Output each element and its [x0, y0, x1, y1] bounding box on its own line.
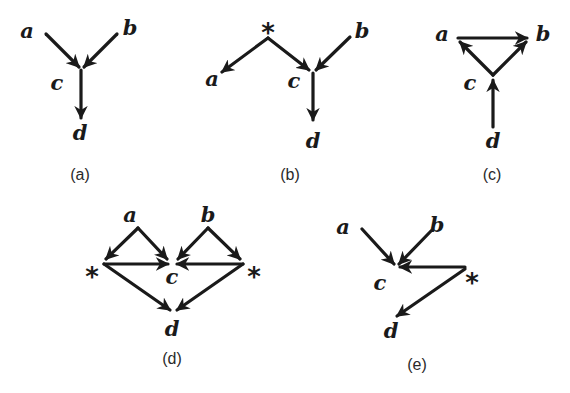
node-label-d: d [165, 316, 180, 341]
edge-a-to-star-left [106, 228, 138, 259]
panel-caption: (c) [483, 166, 502, 183]
latent-node-star: * [85, 262, 99, 292]
edge-a-to-c [362, 229, 394, 264]
edge-b-to-c [84, 34, 117, 67]
node-label-d: d [73, 120, 88, 145]
edge-b-to-c [316, 37, 350, 70]
panel-caption: (e) [407, 356, 427, 373]
edge-a-to-c [46, 34, 79, 67]
edge-star-right-to-d [177, 264, 243, 310]
edge-b-to-star-right [208, 228, 240, 259]
node-label-b: b [430, 212, 445, 237]
node-label-c: c [166, 264, 179, 289]
node-label-c: c [374, 270, 387, 295]
edge-b-to-c [178, 228, 208, 259]
edge-a-to-c [138, 228, 167, 259]
latent-node-star: * [465, 268, 479, 298]
node-label-d: d [384, 318, 399, 343]
latent-node-star: * [261, 18, 275, 48]
panel-d: ab**cd(d) [85, 202, 261, 367]
node-label-b: b [355, 18, 370, 43]
panel-caption: (d) [162, 350, 182, 367]
panel-a: abcd(a) [20, 15, 137, 183]
edge-b-to-c [399, 231, 431, 264]
node-label-b: b [201, 202, 216, 227]
panel-caption: (b) [280, 166, 300, 183]
node-label-c: c [288, 68, 301, 93]
node-label-d: d [306, 128, 321, 153]
edge-star-to-d [397, 269, 465, 316]
node-label-d: d [486, 128, 501, 153]
edge-star-left-to-d [104, 264, 170, 310]
panel-b: *abcd(b) [205, 18, 369, 183]
latent-node-star: * [247, 262, 261, 292]
node-label-a: a [435, 21, 449, 46]
panel-c: abcd(c) [435, 21, 550, 183]
node-label-b: b [536, 21, 551, 46]
node-label-b: b [123, 15, 138, 40]
node-label-a: a [123, 202, 137, 227]
node-label-a: a [336, 214, 350, 239]
node-label-c: c [51, 70, 64, 95]
panel-e: abc*d(e) [336, 212, 479, 373]
node-label-c: c [464, 70, 477, 95]
panel-caption: (a) [70, 166, 90, 183]
node-label-a: a [205, 66, 219, 91]
causal-graph-figure: abcd(a)*abcd(b)abcd(c)ab**cd(d)abc*d(e) [0, 0, 570, 393]
edge-c-to-b [493, 42, 526, 75]
node-label-a: a [20, 18, 34, 43]
